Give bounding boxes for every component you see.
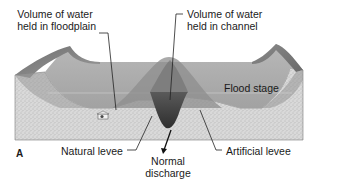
channel-volume-label: Volume of water held in channel — [187, 8, 262, 32]
floodplain-cross-section-diagram: Volume of water held in floodplain Volum… — [0, 0, 342, 188]
channel-volume-label-line2: held in channel — [187, 20, 262, 32]
artificial-levee-label: Artificial levee — [226, 145, 291, 157]
natural-levee-label: Natural levee — [61, 145, 123, 157]
normal-discharge-label: Normal discharge — [138, 155, 198, 179]
floodplain-volume-label-line1: Volume of water — [14, 8, 96, 20]
panel-letter: A — [16, 148, 23, 159]
channel-volume-label-line1: Volume of water — [187, 8, 262, 20]
floodplain-volume-label: Volume of water held in floodplain — [14, 8, 96, 32]
normal-discharge-label-line1: Normal — [138, 155, 198, 167]
flood-stage-label: Flood stage — [224, 82, 279, 94]
normal-discharge-label-line2: discharge — [138, 167, 198, 179]
floodplain-volume-label-line2: held in floodplain — [14, 20, 96, 32]
